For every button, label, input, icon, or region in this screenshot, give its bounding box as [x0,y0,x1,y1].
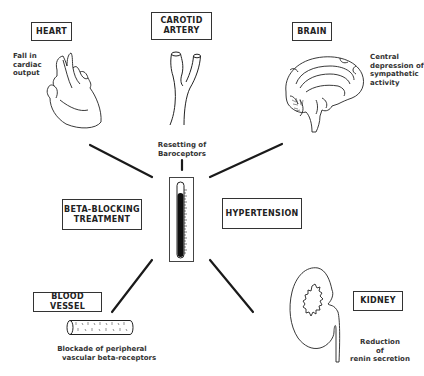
heart-title-box: HEART [31,22,72,41]
blood-vessel-icon [67,321,133,335]
connector-heart [90,145,152,177]
carotid-title-box: CAROTID ARTERY [151,12,212,40]
brain-effect: Central depression of sympathetic activi… [370,53,424,87]
connector-kidney [210,260,253,312]
hypertension-label: HYPERTENSION [225,209,298,219]
brain-title: BRAIN [297,27,327,37]
kidney-icon [290,268,340,362]
connector-blood-vessel [112,260,152,312]
blood-vessel-effect: Blockade of peripheral vascular beta-rec… [52,345,152,362]
heart-title: HEART [36,27,67,37]
heart-icon [47,53,101,128]
kidney-effect: Reduction of renin secretion [348,338,412,364]
blood-vessel-title-box: BLOOD VESSEL [33,292,102,312]
kidney-title: KIDNEY [360,296,396,306]
carotid-title-line1: CAROTID [160,16,202,26]
carotid-artery-icon [170,52,201,125]
carotid-effect: Resetting of Baroceptors [152,141,212,158]
kidney-title-box: KIDNEY [353,291,403,311]
heart-effect: Fall in cardiac output [13,52,42,78]
thermometer-icon [170,178,194,262]
beta-blocking-treatment-box: BETA-BLOCKING TREATMENT [62,199,142,230]
connector-brain [210,144,282,177]
blood-vessel-title: BLOOD VESSEL [34,292,101,312]
carotid-title-line2: ARTERY [163,26,199,36]
beta-blocking-line1: BETA-BLOCKING [64,205,140,215]
hypertension-box: HYPERTENSION [222,198,302,229]
brain-icon [286,57,364,132]
brain-title-box: BRAIN [292,22,332,41]
beta-blocking-line2: TREATMENT [74,215,130,225]
